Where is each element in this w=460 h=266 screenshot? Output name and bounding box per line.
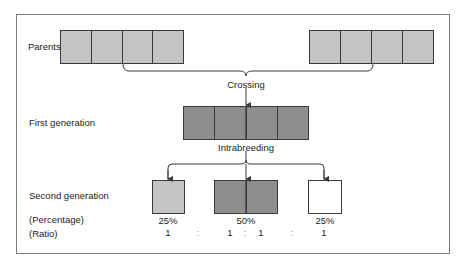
ratio-separator: : — [197, 227, 200, 238]
percentage-middle: 50% — [236, 215, 255, 226]
ratio-left: 1 — [165, 227, 170, 238]
ratio-separator: : — [244, 227, 247, 238]
ratio-separator: : — [291, 227, 294, 238]
ratio-right: 1 — [321, 227, 326, 238]
percentage-right: 25% — [315, 215, 334, 226]
crossing-brace — [123, 64, 373, 76]
intrabreeding-label: Intrabreeding — [218, 142, 274, 153]
ratio-middle-b: 1 — [258, 227, 263, 238]
percentage-left: 25% — [158, 215, 177, 226]
ratio-middle-a: 1 — [227, 227, 232, 238]
crossing-label: Crossing — [227, 79, 265, 90]
